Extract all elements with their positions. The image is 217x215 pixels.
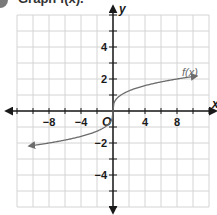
y-axis-label: y bbox=[118, 2, 127, 16]
x-axis-label: x bbox=[211, 97, 217, 111]
x-tick-label: −8 bbox=[43, 116, 56, 128]
curve-label: f(x) bbox=[182, 66, 198, 78]
y-tick-label: 2 bbox=[101, 73, 107, 85]
x-tick-label: 4 bbox=[142, 116, 149, 128]
coordinate-graph: −8−448−4−224Oyxf(x) bbox=[0, 0, 217, 215]
x-tick-label: 8 bbox=[174, 116, 180, 128]
x-tick-label: −4 bbox=[75, 116, 88, 128]
y-tick-label: −2 bbox=[94, 137, 107, 149]
y-tick-label: 4 bbox=[101, 41, 108, 53]
y-tick-label: −4 bbox=[94, 169, 107, 181]
